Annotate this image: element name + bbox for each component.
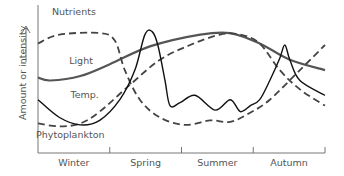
y-axis-label-group: Amount or intensity [17, 25, 30, 120]
series-label-phytoplankton: Phytoplankton [36, 129, 104, 140]
series-line-temp [38, 33, 325, 126]
series-label-light: Light [69, 55, 93, 66]
x-tick-label-spring: Spring [130, 157, 161, 168]
x-tick-label-autumn: Autumn [270, 157, 308, 168]
x-tick-label-summer: Summer [197, 157, 237, 168]
x-tick-label-winter: Winter [58, 157, 89, 168]
series-line-phytoplankton [38, 30, 325, 125]
series-label-temp: Temp. [69, 89, 98, 100]
seasonal-cycle-chart: Amount or intensity WinterSpringSummerAu… [0, 0, 344, 176]
series-label-nutrients: Nutrients [52, 6, 96, 17]
series-line-nutrients [38, 33, 325, 125]
